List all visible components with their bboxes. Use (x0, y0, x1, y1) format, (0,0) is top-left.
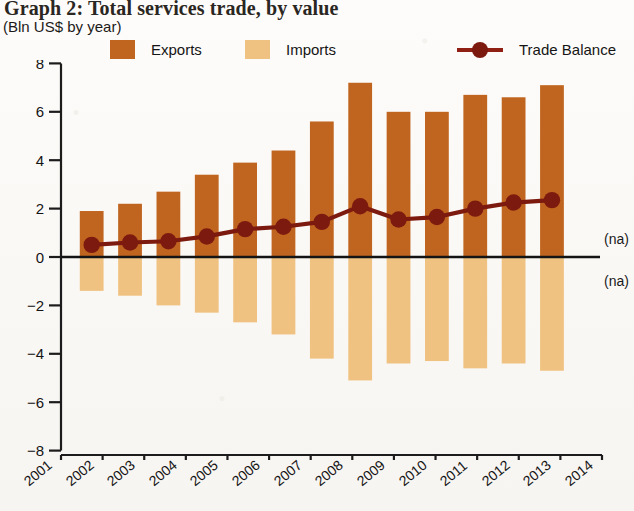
bar-imports (118, 257, 142, 296)
trade-balance-point (429, 209, 445, 225)
bar-imports (80, 257, 104, 291)
bar-exports (195, 175, 219, 257)
bar-imports (233, 257, 257, 322)
bar-exports (233, 163, 257, 257)
page-title: Graph 2: Total services trade, by value (4, 0, 338, 20)
bar-exports (348, 83, 372, 257)
bar-imports (387, 257, 411, 363)
x-tick-label: 2011 (437, 457, 470, 489)
y-axis: 86420−2−4−6−8 (27, 60, 61, 459)
x-tick-label: 2005 (187, 457, 221, 489)
bar-exports (540, 85, 564, 257)
na-annotation: (na) (604, 273, 629, 289)
x-tick-label: 2003 (104, 457, 138, 489)
y-tick-label: 0 (36, 249, 44, 266)
trade-balance-point (122, 234, 138, 250)
x-tick-label: 2014 (562, 457, 596, 489)
legend-label-trade-balance: Trade Balance (519, 41, 616, 58)
legend-swatch-exports (110, 40, 135, 59)
bar-imports (195, 257, 219, 313)
x-tick-label: 2012 (478, 457, 512, 489)
bar-exports (272, 151, 296, 257)
x-tick-label: 2004 (146, 457, 180, 489)
bar-imports (425, 257, 449, 361)
trade-balance-point (390, 211, 406, 227)
trade-balance-point (544, 192, 560, 208)
legend-marker-trade-balance (457, 40, 503, 59)
trade-balance-point (275, 219, 291, 235)
bar-imports (540, 257, 564, 371)
bars-layer (80, 83, 564, 381)
legend-item-imports[interactable]: Imports (245, 38, 336, 60)
x-axis-labels: 2001200220032004200520062007200820092010… (0, 455, 634, 511)
x-tick-label: 2008 (312, 457, 346, 489)
x-tick-label: 2010 (395, 457, 429, 489)
y-tick-label: −2 (27, 297, 44, 314)
bar-exports (387, 112, 411, 257)
legend-label-imports: Imports (286, 41, 336, 58)
y-tick-label: 6 (36, 103, 44, 120)
legend-item-trade-balance[interactable]: Trade Balance (457, 38, 616, 60)
bar-exports (502, 97, 526, 257)
legend-label-exports: Exports (151, 41, 202, 58)
y-tick-label: 8 (36, 60, 44, 72)
chart-legend: Exports Imports Trade Balance (0, 38, 634, 60)
trade-balance-point (237, 221, 253, 237)
bar-imports (502, 257, 526, 363)
plot-area: 86420−2−4−6−8 (na)(na) (0, 60, 634, 460)
y-tick-label: 4 (36, 152, 44, 169)
na-annotations: (na)(na) (604, 231, 629, 289)
trade-balance-point (352, 198, 368, 214)
bar-imports (463, 257, 487, 368)
legend-swatch-imports (245, 40, 270, 59)
trade-balance-point (199, 228, 215, 244)
x-tick-label: 2007 (270, 457, 304, 489)
trade-balance-point (505, 194, 521, 210)
bar-exports (425, 112, 449, 257)
x-tick-label: 2002 (62, 457, 96, 489)
x-tick-label: 2001 (21, 457, 55, 489)
y-tick-label: 2 (36, 200, 44, 217)
y-tick-label: −6 (27, 394, 44, 411)
trade-balance-point (467, 200, 483, 216)
trade-balance-point (314, 214, 330, 230)
legend-item-exports[interactable]: Exports (110, 38, 202, 60)
chart-subtitle: (Bln US$ by year) (3, 18, 121, 35)
x-tick-label: 2013 (520, 457, 554, 489)
trade-balance-point (83, 237, 99, 253)
bar-imports (272, 257, 296, 334)
bar-imports (348, 257, 372, 380)
na-annotation: (na) (604, 231, 629, 247)
bar-exports (463, 95, 487, 257)
x-tick-label: 2006 (229, 457, 263, 489)
bar-exports (310, 121, 334, 257)
trade-balance-point (160, 233, 176, 249)
x-tick-label: 2009 (354, 457, 388, 489)
chart-canvas: 86420−2−4−6−8 (na)(na) (0, 60, 634, 460)
bar-imports (310, 257, 334, 359)
bar-imports (157, 257, 181, 305)
y-tick-label: −4 (27, 345, 44, 362)
